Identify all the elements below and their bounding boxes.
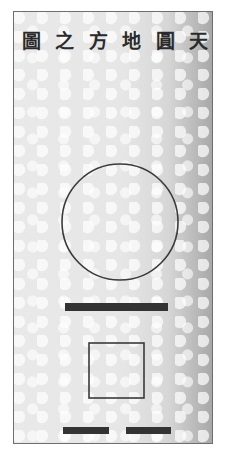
earth-square-shape — [89, 343, 144, 398]
yin-line-bar-left — [63, 427, 109, 434]
yin-line-bar-right — [126, 427, 171, 434]
heaven-circle-shape — [62, 164, 178, 280]
yang-line-bar — [65, 303, 168, 311]
diagram-shapes — [0, 0, 225, 457]
